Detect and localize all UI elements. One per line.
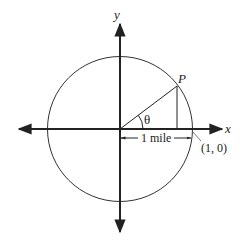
point-label: P [177,71,186,86]
intercept-label: (1, 0) [201,141,227,155]
angle-label: θ [144,112,150,127]
unit-circle-diagram: y x P θ 1 mile (1, 0) [0,0,241,245]
x-axis-label: x [224,121,231,136]
distance-label: 1 mile [141,131,171,145]
intercept-leader [192,131,201,141]
angle-arc [138,115,143,129]
y-axis-label: y [112,7,120,22]
